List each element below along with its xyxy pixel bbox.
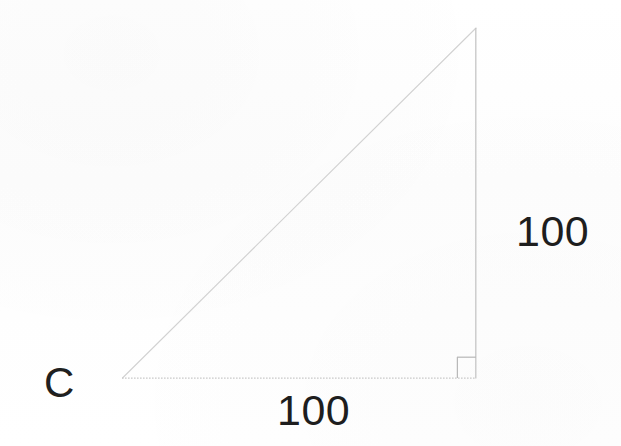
vertex-label-c: C [44, 362, 74, 404]
diagram-canvas: C 100 100 [0, 0, 621, 446]
height-length-label: 100 [516, 210, 589, 253]
triangle-hypotenuse-edge [123, 28, 477, 378]
base-length-label: 100 [277, 389, 350, 432]
right-angle-marker-icon [457, 357, 476, 378]
